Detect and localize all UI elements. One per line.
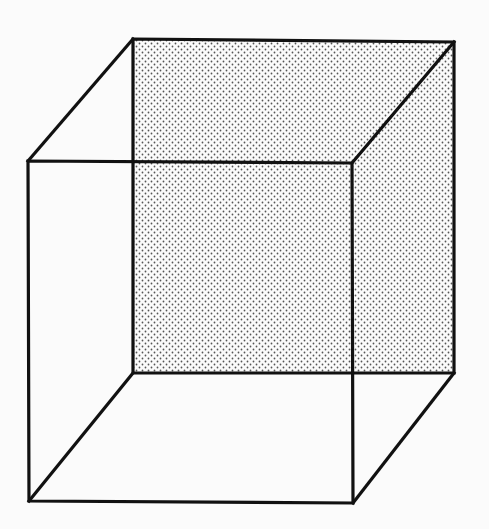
edge-bottom-left-depth bbox=[29, 373, 133, 501]
necker-cube-diagram bbox=[0, 0, 489, 529]
edge-top-left-depth bbox=[28, 39, 133, 161]
back-face-shading bbox=[133, 39, 454, 373]
edge-bottom-right-depth bbox=[353, 373, 454, 503]
